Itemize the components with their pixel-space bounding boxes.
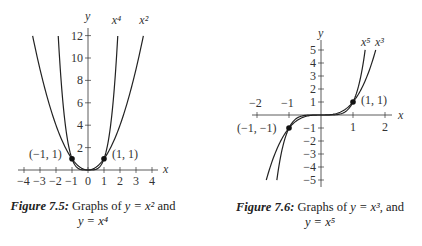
y-tick-label: 1 (310, 95, 316, 109)
x-tick-label: −1 (281, 96, 294, 110)
y-axis-label: y (84, 9, 91, 23)
x-tick-label: −1 (65, 174, 78, 188)
x-axis-label: x (397, 108, 404, 122)
data-point (286, 125, 292, 131)
x-tick-label: 4 (149, 174, 155, 188)
y-tick-label: 12 (71, 29, 83, 43)
y-tick-label: −1 (303, 121, 316, 135)
data-point (350, 99, 356, 105)
y-tick-label: 2 (310, 82, 316, 96)
y-tick-label: 6 (77, 96, 83, 110)
x-tick-label: 1 (101, 174, 107, 188)
x-tick-label: −2 (49, 174, 62, 188)
caption-label: Figure 7.5 (11, 199, 65, 213)
figure-7-5-caption: Figure 7.5: Graphs of y = x² and y = x⁴ (8, 199, 178, 229)
y-tick-label: −5 (303, 173, 316, 187)
y-tick-label: 4 (310, 56, 316, 70)
x-tick-label: 2 (117, 174, 123, 188)
point-label: (−1, −1) (237, 121, 277, 135)
x-axis-label: x (162, 162, 169, 176)
y-tick-label: 8 (77, 73, 83, 87)
point-label: (−1, 1) (29, 147, 62, 161)
point-label: (1, 1) (361, 93, 387, 107)
y-axis-label: y (317, 26, 324, 40)
series-label-x2: x² (138, 13, 148, 27)
figure-7-6-caption: Figure 7.6: Graphs of y = x³, and y = x⁵ (232, 200, 408, 230)
figure-7-6-plot: −2−112x12345−1−2−3−4−5yx⁵x³(−1, −1)(1, 1… (237, 26, 404, 187)
x-tick-label: −4 (17, 174, 30, 188)
x-tick-label: 3 (133, 174, 139, 188)
y-tick-label: −4 (303, 160, 316, 174)
y-tick-label: −2 (303, 134, 316, 148)
y-tick-label: 2 (77, 141, 83, 155)
y-tick-label: 10 (71, 51, 83, 65)
x-tick-label: 1 (350, 120, 356, 134)
series-label-x4: x⁴ (111, 13, 122, 27)
y-tick-label: −3 (303, 147, 316, 161)
x-tick-label: 2 (382, 120, 388, 134)
series-label-x3: x³ (374, 35, 384, 49)
point-label: (1, 1) (112, 147, 138, 161)
x-tick-label: −3 (33, 174, 46, 188)
y-tick-label: 3 (310, 69, 316, 83)
caption-label: Figure 7.6 (236, 200, 290, 214)
series-label-x5: x⁵ (360, 35, 371, 49)
y-tick-label: 5 (310, 43, 316, 57)
y-tick-label: 4 (77, 118, 83, 132)
x-tick-label: −2 (249, 96, 262, 110)
data-point (101, 156, 107, 162)
figure-7-5-plot: −4−3−2−101234x24681012yx⁴x²(−1, 1)(1, 1) (17, 9, 169, 188)
data-point (69, 156, 75, 162)
x-tick-label: 0 (85, 174, 91, 188)
